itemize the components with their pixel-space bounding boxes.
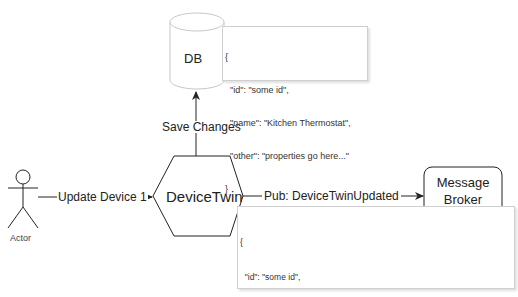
db-json-note: { "id": "some id", "name": "Kitchen Ther… xyxy=(222,26,368,81)
db-note-line: } xyxy=(225,184,365,195)
event-note-line: { xyxy=(240,237,512,249)
db-note-line: "other": "properties go here..." xyxy=(225,151,365,162)
db-note-line: "name": "Kitchen Thermostat", xyxy=(225,118,365,129)
db-note-line: "id": "some id", xyxy=(225,85,365,96)
update-edge-label: Update Device 1 xyxy=(57,191,148,203)
db-note-line: { xyxy=(225,52,365,63)
actor-label: Actor xyxy=(10,234,31,243)
event-json-note: { "id": "some id", "patches": [ { "op": … xyxy=(237,206,515,289)
message-broker-label: Message Broker xyxy=(424,174,502,208)
db-label: DB xyxy=(184,52,202,65)
message-broker-label-line1: Message xyxy=(424,174,502,191)
event-note-line: "id": "some id", xyxy=(240,272,512,284)
actor-icon[interactable] xyxy=(8,170,38,228)
